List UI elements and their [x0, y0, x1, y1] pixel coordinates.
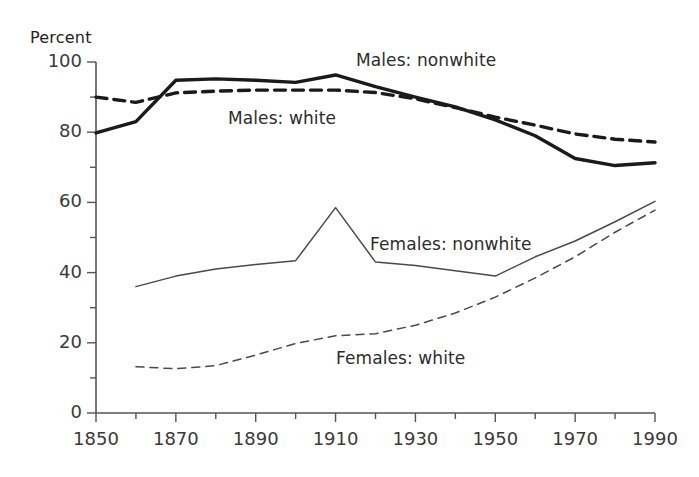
- data-series: [96, 75, 655, 369]
- x-tick-label: 1870: [148, 428, 204, 449]
- x-tick-label: 1890: [228, 428, 284, 449]
- y-tick-label: 80: [20, 120, 82, 141]
- series-line-males-white: [96, 90, 655, 142]
- x-tick-label: 1990: [627, 428, 683, 449]
- y-tick-label: 100: [20, 50, 82, 71]
- x-tick-label: 1850: [68, 428, 124, 449]
- series-label: Females: nonwhite: [370, 234, 532, 254]
- y-axis-title: Percent: [30, 28, 92, 47]
- chart-figure: Percent 18501870189019101930195019701990…: [0, 0, 699, 477]
- x-tick-label: 1910: [308, 428, 364, 449]
- y-tick-label: 40: [20, 261, 82, 282]
- chart-plot-area: [0, 0, 699, 477]
- y-tick-label: 60: [20, 190, 82, 211]
- x-tick-label: 1970: [547, 428, 603, 449]
- x-tick-label: 1930: [387, 428, 443, 449]
- x-tick-label: 1950: [467, 428, 523, 449]
- series-label: Females: white: [336, 348, 465, 368]
- y-tick-label: 0: [20, 401, 82, 422]
- series-label: Males: white: [228, 108, 336, 128]
- y-tick-label: 20: [20, 331, 82, 352]
- series-label: Males: nonwhite: [356, 50, 496, 70]
- series-line-males-nonwhite: [96, 75, 655, 166]
